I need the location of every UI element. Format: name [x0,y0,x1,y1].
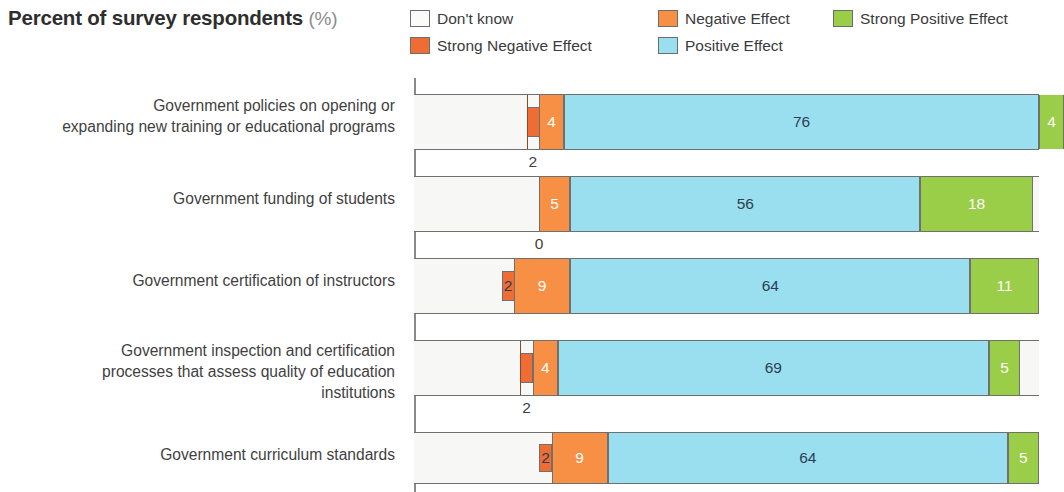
bar-value-negative: 5 [550,196,559,212]
bar-segment-strong-negative[interactable]: 2 [539,444,552,472]
bar-value-negative: 9 [538,278,547,294]
bar-value-positive: 69 [765,360,782,376]
legend-item-positive[interactable]: Positive Effect [658,37,783,54]
bar-value-strong-positive: 5 [1019,450,1028,466]
bar-value-positive: 64 [799,450,816,466]
bar-segment-negative[interactable]: 9 [552,433,608,483]
legend-label-strong-negative: Strong Negative Effect [437,38,592,54]
bar-value-strong-negative: 2 [528,153,537,171]
bar-value-strong-negative: 0 [535,235,544,253]
boundary-tick [520,341,521,395]
legend-item-strong-negative[interactable]: Strong Negative Effect [410,37,592,54]
legend-swatch-positive [658,37,678,54]
legend-item-dont-know[interactable]: Don't know [410,10,513,27]
legend-item-strong-positive[interactable]: Strong Positive Effect [833,10,1008,27]
bar-value-strong-negative: 2 [541,450,550,466]
bar-segment-negative[interactable]: 4 [539,95,564,149]
bar-value-positive: 56 [737,196,754,212]
bar-track: 29645 [414,432,1039,484]
bar-segment-strong-positive[interactable]: 11 [970,259,1039,313]
bar-segment-strong-positive[interactable]: 5 [1008,433,1039,483]
chart-title-unit: (%) [308,8,337,29]
bar-value-negative: 4 [547,114,556,130]
bar-segment-strong-negative[interactable] [520,353,533,383]
bar-segment-strong-positive[interactable]: 18 [920,177,1033,231]
legend: Don't know Strong Negative Effect Negati… [410,8,1041,64]
chart-title-text: Percent of survey respondents [8,6,303,29]
bar-track: 296411 [414,258,1039,314]
legend-swatch-strong-positive [833,10,853,27]
boundary-tick [527,95,528,149]
bar-value-strong-positive: 11 [997,278,1013,294]
bar-value-strong-negative: 2 [504,278,513,294]
bar-segment-strong-negative[interactable] [527,107,540,137]
legend-swatch-strong-negative [410,37,430,54]
bar-segment-positive[interactable]: 56 [570,177,920,231]
bar-segment-strong-positive[interactable]: 4 [1039,95,1064,149]
bar-track: 4764 [414,94,1039,150]
row-label: Government funding of students [5,188,395,209]
bar-segment-strong-positive[interactable]: 5 [989,341,1020,395]
bar-value-positive: 64 [762,278,779,294]
legend-item-negative[interactable]: Negative Effect [658,10,790,27]
bar-segment-strong-negative[interactable]: 2 [502,271,515,301]
bar-value-strong-positive: 18 [968,196,985,212]
bar-value-positive: 76 [793,114,810,130]
chart-header: Percent of survey respondents (%) Don't … [0,0,1041,78]
bar-value-strong-positive: 5 [1000,360,1009,376]
bar-segment-positive[interactable]: 64 [608,433,1008,483]
legend-label-dont-know: Don't know [437,11,513,27]
bar-track: 55618 [414,176,1039,232]
bar-track: 4695 [414,340,1039,396]
bar-value-negative: 4 [541,360,550,376]
legend-label-negative: Negative Effect [685,11,790,27]
legend-label-positive: Positive Effect [685,38,783,54]
bar-segment-positive[interactable]: 76 [564,95,1039,149]
row-label: Government certification of instructors [5,270,395,291]
row-label: Government inspection and certificationp… [5,340,395,403]
bar-segment-positive[interactable]: 64 [570,259,970,313]
bar-segment-negative[interactable]: 5 [539,177,570,231]
bar-value-strong-negative: 2 [522,399,531,417]
page-title: Percent of survey respondents (%) [8,6,337,30]
legend-label-strong-positive: Strong Positive Effect [860,11,1008,27]
legend-swatch-negative [658,10,678,27]
chart-plot-area: Government policies on opening orexpandi… [0,78,1041,492]
row-label: Government curriculum standards [5,444,395,465]
bar-segment-negative[interactable]: 4 [533,341,558,395]
bar-segment-negative[interactable]: 9 [514,259,570,313]
bar-value-strong-positive: 4 [1047,114,1056,130]
legend-swatch-dont-know [410,10,430,27]
bar-segment-positive[interactable]: 69 [558,341,989,395]
bar-value-negative: 9 [575,450,584,466]
row-label: Government policies on opening orexpandi… [5,95,395,137]
